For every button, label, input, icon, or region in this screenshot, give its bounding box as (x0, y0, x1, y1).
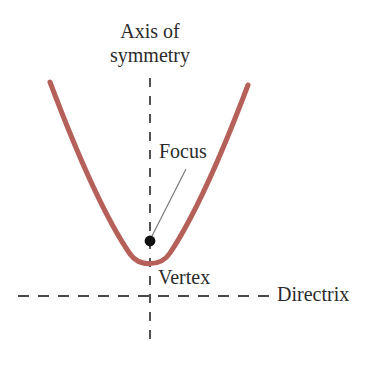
axis-of-symmetry-label-line1: Axis of (0, 20, 300, 44)
focus-point (145, 236, 156, 247)
axis-of-symmetry-label: Axis of symmetry (0, 20, 300, 67)
focus-label: Focus (159, 140, 207, 164)
vertex-label: Vertex (158, 266, 210, 290)
axis-of-symmetry-label-line2: symmetry (0, 44, 300, 68)
directrix-label: Directrix (277, 283, 349, 307)
